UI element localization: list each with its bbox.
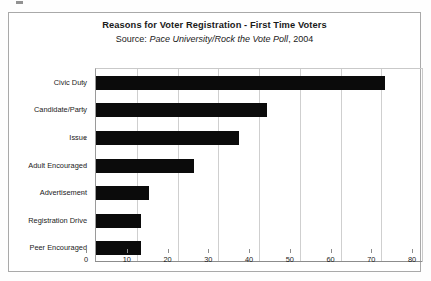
x-tick-label-30: 30 (195, 255, 221, 264)
source-publication: Pace University/Rock the Vote Poll (149, 34, 288, 44)
x-tick-label-40: 40 (236, 255, 262, 264)
gridline-50 (300, 69, 301, 262)
y-tick (82, 220, 86, 221)
y-axis-label: Peer Encouraged (29, 243, 87, 252)
chart-source: Source: Pace University/Rock the Vote Po… (9, 34, 420, 44)
chart-frame: Reasons for Voter Registration - First T… (8, 12, 421, 272)
x-tick-0 (86, 249, 87, 253)
y-axis-category-labels: Civic DutyCandidate/PartyIssueAdult Enco… (9, 68, 91, 261)
x-tick-60 (331, 249, 332, 253)
chart-title: Reasons for Voter Registration - First T… (9, 20, 420, 30)
x-tick-30 (208, 249, 209, 253)
y-axis-label: Adult Encouraged (28, 161, 87, 170)
plot-area (95, 68, 423, 262)
y-axis-label: Registration Drive (28, 216, 87, 225)
y-tick (82, 165, 86, 166)
x-tick-70 (371, 249, 372, 253)
x-tick-label-50: 50 (277, 255, 303, 264)
gridline-30 (218, 69, 219, 262)
x-tick-40 (249, 249, 250, 253)
x-tick-10 (127, 249, 128, 253)
bar (96, 186, 149, 200)
gridline-70 (381, 69, 382, 262)
source-year: , 2004 (288, 34, 313, 44)
y-axis-label: Candidate/Party (34, 105, 87, 114)
x-tick-label-10: 10 (114, 255, 140, 264)
x-tick-50 (290, 249, 291, 253)
bar (96, 214, 141, 228)
x-tick-label-70: 70 (358, 255, 384, 264)
x-tick-label-80: 80 (399, 255, 425, 264)
y-tick (82, 138, 86, 139)
bar (96, 131, 239, 145)
x-tick-80 (412, 249, 413, 253)
bar (96, 241, 141, 255)
chart-header: Reasons for Voter Registration - First T… (9, 20, 420, 44)
bar (96, 159, 194, 173)
y-axis-label: Advertisement (40, 188, 87, 197)
x-tick-label-0: 0 (73, 255, 99, 264)
x-tick-label-20: 20 (155, 255, 181, 264)
gridline-60 (341, 69, 342, 262)
source-label: Source: (116, 34, 147, 44)
y-tick (82, 110, 86, 111)
gridline-40 (259, 69, 260, 262)
y-tick (82, 193, 86, 194)
bar (96, 103, 267, 117)
x-tick-20 (168, 249, 169, 253)
y-tick (82, 83, 86, 84)
bar (96, 76, 385, 90)
x-tick-label-60: 60 (318, 255, 344, 264)
scan-artifact-speck (16, 1, 23, 4)
